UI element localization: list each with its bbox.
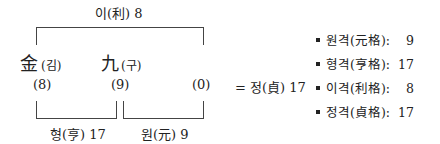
hanja-gu: 九: [101, 53, 119, 74]
bullet-icon: [316, 62, 320, 66]
char-gu: 九(구): [101, 49, 141, 75]
bottom-label-hyeong: 형(亨) 17: [50, 124, 106, 143]
reading-gu: (구): [121, 59, 141, 73]
bottom-label-won: 원(元) 9: [141, 124, 189, 143]
stroke-empty: (0): [192, 77, 210, 92]
summary-item-hyeong: 형격(亨格):17: [316, 54, 414, 73]
summary-item-jeong: 정격(貞格):17: [316, 102, 414, 121]
char-kim: 金(김): [20, 49, 61, 75]
bullet-icon: [316, 110, 320, 114]
hanja-kim: 金: [20, 53, 38, 74]
top-label-i: 이(利) 8: [95, 3, 143, 22]
equals-jeong: = 정(貞) 17: [235, 77, 306, 96]
stroke-gu: (9): [111, 77, 129, 92]
summary-item-i: 이격(利格):8: [316, 78, 414, 97]
reading-kim: (김): [41, 59, 61, 73]
bullet-icon: [316, 86, 320, 90]
bullet-icon: [316, 38, 320, 42]
summary-item-won: 원격(元格):9: [316, 30, 414, 49]
stroke-kim: (8): [33, 77, 51, 92]
